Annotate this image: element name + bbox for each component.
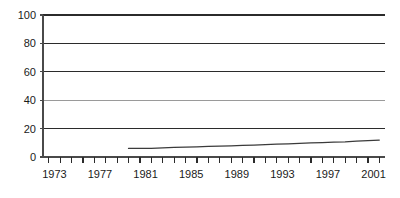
gridlines	[43, 15, 385, 157]
line-chart: 020406080100 197319771981198519891993199…	[0, 0, 400, 198]
series-line-series-1	[129, 140, 380, 148]
x-tick-label-1973: 1973	[42, 168, 66, 180]
x-tick-label-1977: 1977	[88, 168, 112, 180]
x-tick-label-1985: 1985	[179, 168, 203, 180]
x-tick-label-1981: 1981	[133, 168, 157, 180]
y-axis-tick-labels: 020406080100	[18, 9, 36, 163]
y-tick-label-80: 80	[24, 37, 36, 49]
data-series-lines	[129, 140, 380, 148]
x-tick-label-1997: 1997	[316, 168, 340, 180]
y-tick-label-40: 40	[24, 94, 36, 106]
y-axis	[40, 15, 44, 157]
x-axis-tick-labels: 19731977198119851989199319972001	[42, 168, 386, 180]
x-tick-label-1989: 1989	[225, 168, 249, 180]
y-tick-label-60: 60	[24, 66, 36, 78]
x-tick-label-1993: 1993	[270, 168, 294, 180]
x-axis-tick-marks	[49, 157, 380, 163]
y-tick-label-100: 100	[18, 9, 36, 21]
y-tick-label-20: 20	[24, 123, 36, 135]
y-tick-label-0: 0	[30, 151, 36, 163]
chart-canvas: 020406080100 197319771981198519891993199…	[0, 0, 400, 198]
x-tick-label-2001: 2001	[361, 168, 385, 180]
